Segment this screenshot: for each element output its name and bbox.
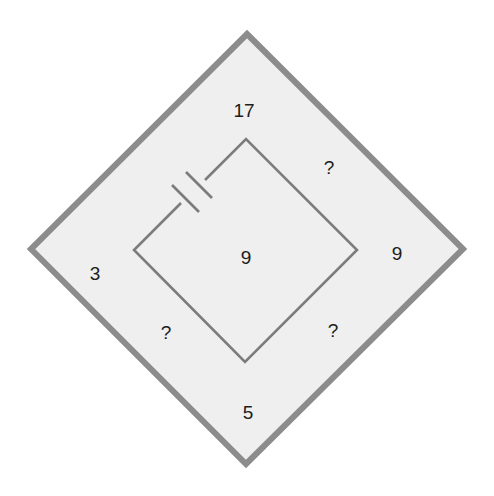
label-bottom-left: ? [161, 322, 172, 343]
label-top-right: ? [324, 157, 335, 178]
label-top: 17 [233, 100, 254, 121]
label-right: 9 [392, 243, 403, 264]
label-bottom: 5 [243, 402, 254, 423]
label-center: 9 [241, 247, 252, 268]
label-bottom-right: ? [328, 320, 339, 341]
circuit-puzzle-diagram: 17 ? 9 ? 5 ? 3 9 [0, 0, 494, 496]
label-left: 3 [90, 263, 101, 284]
